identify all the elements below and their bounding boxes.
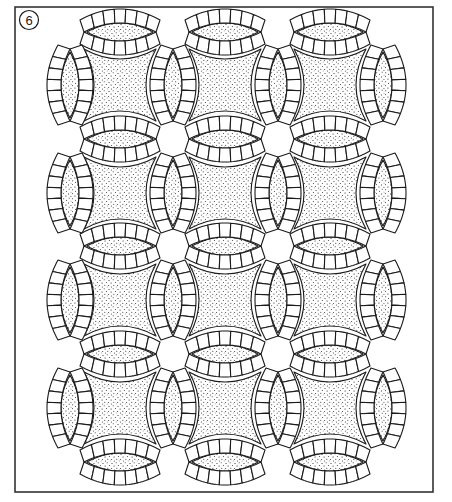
arc-segment <box>114 41 125 55</box>
arc-segment <box>74 271 91 284</box>
center-square <box>189 49 261 121</box>
arc-segment <box>77 176 92 188</box>
arc-segment <box>282 56 299 69</box>
arc-segment <box>180 283 195 295</box>
center-square <box>294 49 366 121</box>
arc-segment <box>79 187 93 198</box>
arc-segment <box>285 68 300 80</box>
arc-segment <box>257 164 274 177</box>
center-square <box>189 157 261 229</box>
arc-segment <box>313 9 325 24</box>
arc-segment <box>103 39 115 54</box>
arc-segment <box>287 187 301 198</box>
arc-segment <box>285 283 300 295</box>
figure-number-badge: 6 <box>20 11 39 30</box>
melon <box>150 45 196 125</box>
arc-segment <box>182 79 196 90</box>
melon <box>80 9 160 55</box>
arc-segment <box>362 56 379 69</box>
arc-segment <box>387 56 404 69</box>
arc-segment <box>360 79 374 90</box>
arc-segment <box>103 439 115 454</box>
arc-segment <box>196 358 209 375</box>
arc-segment <box>182 402 196 413</box>
melon <box>80 331 160 377</box>
melon <box>185 331 265 377</box>
center-square <box>189 264 261 336</box>
arc-segment <box>360 68 375 80</box>
arc-segment <box>103 253 115 268</box>
arc-segment <box>208 361 220 376</box>
arc-segment <box>180 391 195 403</box>
melon <box>360 45 406 125</box>
figure-number: 6 <box>25 13 32 28</box>
arc-segment <box>150 283 165 295</box>
arc-segment <box>324 41 335 55</box>
arc-segment <box>196 225 209 242</box>
arc-segment <box>257 379 274 392</box>
arc-segment <box>114 439 125 453</box>
arc-segment <box>74 379 91 392</box>
arc-segment <box>219 255 230 269</box>
arc-segment <box>91 250 104 267</box>
center-square <box>189 372 261 444</box>
center-square <box>294 372 366 444</box>
arc-segment <box>47 187 61 198</box>
melon <box>290 9 370 55</box>
arc-segment <box>219 471 230 485</box>
arc-segment <box>103 116 115 131</box>
arc-segment <box>103 331 115 346</box>
arc-segment <box>301 466 314 483</box>
arc-segment <box>219 363 230 377</box>
arc-segment <box>49 271 66 284</box>
arc-segment <box>177 56 194 69</box>
arc-segment <box>255 79 269 90</box>
arc-segment <box>392 402 406 413</box>
arc-segment <box>301 143 314 160</box>
arc-segment <box>208 331 220 346</box>
arc-segment <box>152 379 169 392</box>
arc-segment <box>74 164 91 177</box>
arc-segment <box>114 331 125 345</box>
arc-segment <box>324 148 335 162</box>
arc-segment <box>103 361 115 376</box>
arc-segment <box>103 9 115 24</box>
arc-segment <box>301 11 314 28</box>
arc-segment <box>196 466 209 483</box>
arc-segment <box>91 118 104 135</box>
arc-segment <box>49 56 66 69</box>
arc-segment <box>255 68 270 80</box>
melon <box>185 116 265 162</box>
arc-segment <box>91 466 104 483</box>
melon <box>47 153 93 233</box>
arc-segment <box>208 116 220 131</box>
arc-segment <box>177 164 194 177</box>
center-square <box>294 264 366 336</box>
arc-segment <box>152 56 169 69</box>
arc-segment <box>91 36 104 53</box>
arc-segment <box>150 68 165 80</box>
arc-segment <box>196 36 209 53</box>
arc-segment <box>313 116 325 131</box>
arc-segment <box>208 439 220 454</box>
arc-segment <box>285 391 300 403</box>
melon <box>290 439 370 485</box>
melon <box>150 153 196 233</box>
arc-segment <box>91 11 104 28</box>
arc-segment <box>91 358 104 375</box>
center-square <box>84 372 156 444</box>
arc-segment <box>79 79 93 90</box>
arc-segment <box>324 363 335 377</box>
arc-segment <box>177 271 194 284</box>
arc-segment <box>47 283 62 295</box>
melon <box>47 368 93 448</box>
arc-segment <box>287 79 301 90</box>
arc-segment <box>255 294 269 305</box>
melon <box>150 260 196 340</box>
melon <box>185 439 265 485</box>
arc-segment <box>360 187 374 198</box>
arc-segment <box>79 294 93 305</box>
arc-segment <box>387 379 404 392</box>
arc-segment <box>313 253 325 268</box>
arc-segment <box>152 271 169 284</box>
